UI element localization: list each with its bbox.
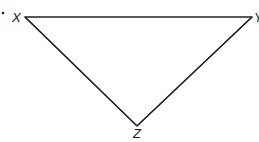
triangle-diagram: X Y Z — [0, 0, 259, 142]
side-yz — [137, 17, 252, 126]
side-xz — [25, 17, 137, 126]
vertex-label-z: Z — [132, 126, 142, 141]
bullet-dot — [2, 12, 5, 15]
triangle-xyz — [25, 17, 252, 126]
vertex-label-y: Y — [254, 10, 259, 25]
vertex-label-x: X — [11, 10, 22, 25]
